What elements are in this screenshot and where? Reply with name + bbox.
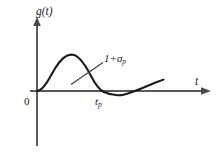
overshoot-annotation-text: 1+σ: [104, 52, 122, 64]
overshoot-annotation-label: 1+σp: [104, 53, 126, 66]
response-curve: [37, 55, 164, 96]
overshoot-annotation-subscript: p: [122, 57, 126, 66]
figure-container: g(t) t 0 1+σp tp: [0, 0, 218, 158]
origin-label: 0: [24, 96, 30, 107]
y-axis-label: g(t): [36, 6, 53, 18]
x-axis-label: t: [195, 76, 198, 88]
peak-time-subscript: p: [98, 100, 102, 109]
y-axis-arrowhead: [33, 17, 41, 26]
overshoot-leader-line: [71, 63, 103, 85]
x-axis-arrowhead: [201, 87, 211, 95]
plot-canvas: [0, 0, 218, 158]
peak-time-label: tp: [95, 96, 102, 109]
